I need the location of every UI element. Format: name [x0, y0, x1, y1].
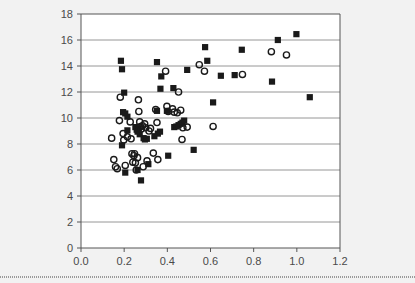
- x-tick-label: 1.0: [289, 255, 304, 267]
- data-point-square: [204, 58, 210, 64]
- data-point-square: [138, 177, 144, 183]
- x-tick-label: 0.6: [203, 255, 218, 267]
- x-tick-label: 0.0: [73, 255, 88, 267]
- data-point-square: [293, 31, 299, 37]
- data-point-square: [239, 47, 245, 53]
- data-point-square: [154, 59, 160, 65]
- data-point-square: [307, 94, 313, 100]
- bottom-dotted-rule: [0, 276, 415, 278]
- y-tick-label: 6: [67, 164, 73, 176]
- y-tick-label: 10: [61, 112, 73, 124]
- data-point-square: [275, 37, 281, 43]
- data-point-square: [157, 129, 163, 135]
- y-tick-label: 2: [67, 216, 73, 228]
- y-tick-label: 14: [61, 60, 73, 72]
- x-tick-label: 0.4: [160, 255, 175, 267]
- scatter-plot: 024681012141618 0.00.20.40.60.81.01.2: [0, 0, 415, 283]
- data-point-square: [184, 67, 190, 73]
- data-point-square: [122, 170, 128, 176]
- y-tick-label: 8: [67, 138, 73, 150]
- plot-area-background: [81, 14, 340, 248]
- data-point-square: [119, 66, 125, 72]
- data-point-square: [218, 73, 224, 79]
- figure-container: 024681012141618 0.00.20.40.60.81.01.2: [0, 0, 415, 283]
- data-point-square: [210, 99, 216, 105]
- x-tick-label: 1.2: [332, 255, 347, 267]
- data-point-square: [202, 44, 208, 50]
- y-tick-label: 16: [61, 34, 73, 46]
- data-point-square: [191, 147, 197, 153]
- y-tick-label: 12: [61, 86, 73, 98]
- data-point-square: [165, 153, 171, 159]
- data-point-square: [157, 86, 163, 92]
- data-point-square: [269, 79, 275, 85]
- data-point-square: [118, 58, 124, 64]
- data-point-square: [232, 72, 238, 78]
- x-tick-label: 0.8: [246, 255, 261, 267]
- y-tick-label: 4: [67, 190, 73, 202]
- x-tick-label: 0.2: [117, 255, 132, 267]
- data-point-square: [181, 118, 187, 124]
- data-point-square: [144, 136, 150, 142]
- y-tick-label: 0: [67, 242, 73, 254]
- y-tick-label: 18: [61, 8, 73, 20]
